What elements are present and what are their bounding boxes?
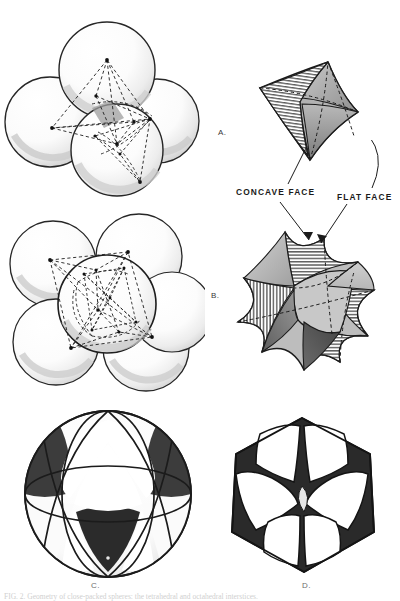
panel-label-d: D. [302,581,311,590]
petal-bottom-right [304,515,341,566]
leader-concave-up [288,146,307,184]
plate-caption: FIG. 2. Geometry of close-packed spheres… [0,592,400,601]
leader-flat-up [343,140,378,188]
petal-bottom-left [264,515,301,566]
sphere-c-pole-dot [106,556,110,560]
leader-concave-down [280,202,309,240]
callout-flat-face: FLAT FACE [337,192,392,202]
illustration-plate: CONCAVE FACE FLAT FACE A. B. C. D. FIG. … [0,0,400,601]
figure-octahedral-sphere-cluster [0,212,205,394]
panel-label-b: B. [211,291,220,300]
figure-d-hexagonal-projection [212,412,392,580]
figure-c-sphere-great-circles [18,408,198,580]
sphere-front-center [58,255,156,353]
panel-label-a: A. [218,128,227,137]
figure-tetrahedral-sphere-cluster [0,4,205,199]
panel-label-c: C. [91,581,100,590]
callout-concave-face: CONCAVE FACE [236,187,315,197]
